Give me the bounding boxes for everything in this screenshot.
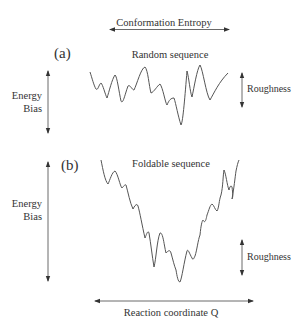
energy-bias-label-line2: Bias bbox=[23, 103, 42, 114]
panel-b: (b) Foldable sequence Energy Bias Roughn… bbox=[12, 157, 291, 282]
roughness-label: Roughness bbox=[247, 83, 291, 94]
energy-bias-label-line1: Energy bbox=[12, 90, 43, 101]
panel-a: (a) Random sequence Energy Bias Roughnes… bbox=[12, 45, 291, 133]
panel-a-title: Random sequence bbox=[132, 49, 209, 60]
panel-b-title: Foldable sequence bbox=[132, 158, 210, 169]
foldable-sequence-funnel-curve bbox=[101, 160, 239, 282]
panel-b-tag: (b) bbox=[61, 157, 79, 174]
random-sequence-landscape-curve bbox=[90, 65, 228, 125]
reaction-coordinate-axis: Reaction coordinate Q bbox=[95, 301, 253, 318]
roughness-label: Roughness bbox=[247, 251, 291, 262]
reaction-coordinate-label: Reaction coordinate Q bbox=[124, 307, 219, 318]
conformation-entropy-axis: Conformation Entropy bbox=[110, 17, 229, 30]
energy-bias-label-line1: Energy bbox=[12, 198, 43, 209]
panel-a-tag: (a) bbox=[54, 45, 71, 62]
energy-landscape-diagram: Conformation Entropy (a) Random sequence… bbox=[0, 0, 302, 329]
energy-bias-label-line2: Bias bbox=[23, 211, 42, 222]
conformation-entropy-label: Conformation Entropy bbox=[116, 17, 212, 28]
